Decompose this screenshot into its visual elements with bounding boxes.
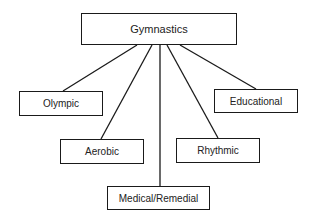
edge-rhythmic: [167, 45, 218, 138]
node-label: Rhythmic: [197, 145, 239, 156]
node-rhythmic: Rhythmic: [176, 138, 260, 163]
edge-olympic: [63, 45, 137, 91]
node-label: Gymnastics: [130, 23, 187, 35]
node-label: Educational: [230, 96, 282, 107]
node-label: Medical/Remedial: [119, 193, 198, 204]
node-aerobic: Aerobic: [60, 139, 144, 164]
node-educational: Educational: [214, 89, 298, 113]
node-medical-remedial: Medical/Remedial: [107, 186, 210, 210]
node-olympic: Olympic: [19, 91, 103, 116]
node-label: Olympic: [43, 98, 79, 109]
node-gymnastics: Gymnastics: [81, 13, 237, 45]
edge-aerobic: [101, 45, 152, 139]
node-label: Aerobic: [85, 146, 119, 157]
edge-educational: [180, 45, 256, 89]
